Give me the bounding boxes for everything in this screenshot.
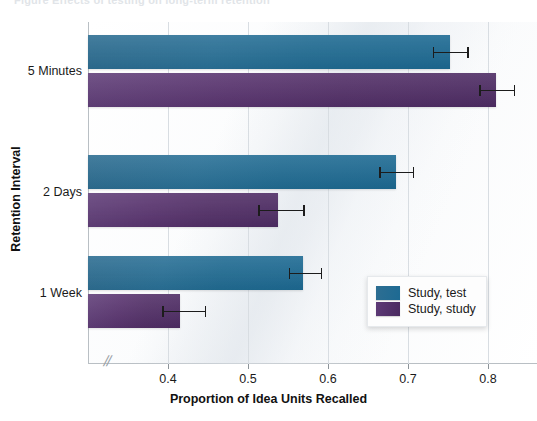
x-tick-0.8 <box>488 364 489 369</box>
error-whisker <box>479 90 515 92</box>
category-label-5-minutes: 5 Minutes <box>2 64 82 78</box>
legend-item-study-study[interactable]: Study, study <box>376 302 476 316</box>
error-whisker <box>379 172 414 174</box>
error-cap-high <box>413 167 415 178</box>
x-tick-0.6 <box>328 364 329 369</box>
error-bar-study-test-5-minutes <box>433 47 469 58</box>
error-bar-study-study-2-days <box>258 205 304 216</box>
error-whisker <box>258 210 304 212</box>
x-tick-label-0.4: 0.4 <box>159 372 176 386</box>
error-bar-study-study-5-minutes <box>479 85 515 96</box>
x-tick-label-0.8: 0.8 <box>479 372 496 386</box>
error-cap-high <box>467 47 469 58</box>
error-cap-high <box>321 268 323 279</box>
x-tick-label-0.6: 0.6 <box>319 372 336 386</box>
legend-label-study-study: Study, study <box>408 302 476 316</box>
bar-study-study-5-minutes <box>88 73 496 107</box>
bar-chart: Figure Effects of testing on long-term r… <box>0 0 537 421</box>
legend-swatch-icon-study-test <box>376 286 400 300</box>
error-bar-study-test-2-days <box>379 167 414 178</box>
legend: Study, test Study, study <box>367 276 487 327</box>
error-whisker <box>162 311 206 313</box>
x-tick-0.4 <box>168 364 169 369</box>
error-bar-study-test-1-week <box>289 268 323 279</box>
bar-study-test-2-days <box>88 155 396 189</box>
error-bar-study-study-1-week <box>162 306 206 317</box>
error-whisker <box>433 52 469 54</box>
legend-swatch-icon-study-study <box>376 302 400 316</box>
error-cap-high <box>514 85 516 96</box>
bar-study-test-5-minutes <box>88 35 450 69</box>
y-axis-title: Retention Interval <box>9 109 23 289</box>
legend-item-study-test[interactable]: Study, test <box>376 286 476 300</box>
x-tick-0.7 <box>408 364 409 369</box>
error-cap-high <box>303 205 305 216</box>
bar-study-test-1-week <box>88 256 303 290</box>
bar-study-study-2-days <box>88 193 278 227</box>
x-tick-0.5 <box>248 364 249 369</box>
x-tick-label-0.7: 0.7 <box>399 372 416 386</box>
x-axis-title: Proportion of Idea Units Recalled <box>0 392 537 406</box>
figure-caption: Figure Effects of testing on long-term r… <box>14 0 270 6</box>
error-cap-high <box>205 306 207 317</box>
x-tick-label-0.5: 0.5 <box>239 372 256 386</box>
legend-label-study-test: Study, test <box>408 286 466 300</box>
error-whisker <box>289 273 323 275</box>
